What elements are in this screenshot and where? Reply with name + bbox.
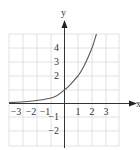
x-tick-label: −3	[11, 106, 22, 117]
y-tick-label: 3	[54, 56, 59, 67]
x-tick-label: 2	[90, 106, 95, 117]
y-tick-label: 2	[54, 70, 59, 81]
x-tick-label: 1	[76, 106, 81, 117]
y-tick-label: −2	[48, 125, 59, 136]
y-axis	[62, 20, 68, 148]
x-axis-label: x	[136, 98, 140, 109]
curve-y-equals-2-to-x	[9, 34, 97, 103]
y-tick-label: −1	[48, 111, 59, 122]
exponential-graph: y x −3 −2 −1 1 2 3 4 3 2 −1 −2	[0, 0, 140, 150]
y-tick-label: 4	[54, 42, 59, 53]
x-tick-label: −2	[26, 106, 37, 117]
x-tick-label: 3	[104, 106, 109, 117]
y-axis-label: y	[61, 7, 66, 18]
